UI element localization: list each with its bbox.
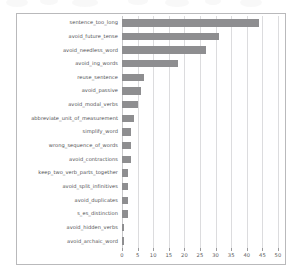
bar[interactable] [122,128,131,135]
bar-chart-figure: 05101520253035404550sentence_too_longavo… [0,0,292,278]
x-tick-mark [169,248,170,251]
x-tick-mark [216,248,217,251]
x-tick-label: 15 [165,252,172,258]
x-tick-label: 30 [212,252,219,258]
bar[interactable] [122,142,131,149]
bar-row[interactable]: wrong_sequence_of_words [122,139,278,152]
x-tick-mark [262,248,263,251]
bar[interactable] [122,87,141,94]
scan-artifact [205,0,221,5]
scan-artifact [240,0,262,7]
bar-row[interactable]: avoid_split_infinitives [122,180,278,193]
x-tick-label: 5 [136,252,139,258]
bar[interactable] [122,156,131,163]
category-label: keep_two_verb_parts_together [38,170,118,175]
bar[interactable] [122,224,124,231]
category-label: avoid_needless_word [63,48,118,53]
bar[interactable] [122,101,138,108]
category-label: simplify_word [82,129,118,134]
bar-row[interactable]: avoid_needless_word [122,44,278,57]
x-tick-label: 25 [197,252,204,258]
x-tick-label: 40 [243,252,250,258]
bar-row[interactable]: s_es_distinction [122,207,278,220]
x-tick-label: 0 [120,252,123,258]
category-label: avoid_ing_words [75,61,118,66]
bar-row[interactable]: avoid_duplicates [122,194,278,207]
bar[interactable] [122,46,206,53]
bar[interactable] [122,74,144,81]
x-tick-mark [278,248,279,251]
category-label: reuse_sentence [77,75,118,80]
bar[interactable] [122,169,128,176]
x-tick-label: 20 [181,252,188,258]
x-tick-mark [138,248,139,251]
bar-row[interactable]: sentence_too_long [122,16,278,29]
x-tick-mark [184,248,185,251]
bar-row[interactable]: avoid_contractions [122,153,278,166]
x-gridline [278,16,279,248]
x-tick-mark [200,248,201,251]
category-label: avoid_contractions [69,157,118,162]
x-tick-label: 45 [259,252,266,258]
bar-row[interactable]: avoid_archaic_word [122,235,278,248]
bar-row[interactable]: avoid_future_tense [122,30,278,43]
bar-row[interactable]: keep_two_verb_parts_together [122,166,278,179]
x-tick-label: 50 [275,252,282,258]
category-label: abbreviate_unit_of_measurement [31,116,118,121]
bar[interactable] [122,210,128,217]
bar-row[interactable]: avoid_modal_verbs [122,98,278,111]
bar[interactable] [122,60,178,67]
category-label: avoid_archaic_word [67,239,118,244]
category-label: s_es_distinction [77,211,118,216]
category-label: wrong_sequence_of_words [49,143,118,148]
x-tick-mark [247,248,248,251]
category-label: avoid_duplicates [75,198,118,203]
scan-artifact [72,0,98,7]
bar-row[interactable]: avoid_hidden_verbs [122,221,278,234]
bar-row[interactable]: reuse_sentence [122,71,278,84]
category-label: avoid_hidden_verbs [67,225,119,230]
bar-row[interactable]: simplify_word [122,126,278,139]
category-label: avoid_split_infinitives [62,184,118,189]
bar[interactable] [122,19,259,26]
bar[interactable] [122,197,128,204]
bar[interactable] [122,183,128,190]
category-label: avoid_future_tense [69,34,118,39]
category-label: sentence_too_long [70,20,118,25]
bar-row[interactable]: avoid_passive [122,85,278,98]
bar[interactable] [122,115,134,122]
category-label: avoid_modal_verbs [68,102,118,107]
x-tick-mark [122,248,123,251]
bar[interactable] [122,33,219,40]
scan-artifact [40,0,58,5]
x-tick-label: 35 [228,252,235,258]
bar-row[interactable]: abbreviate_unit_of_measurement [122,112,278,125]
bar[interactable] [122,237,124,244]
scan-artifact [165,0,189,7]
x-tick-label: 10 [150,252,157,258]
category-label: avoid_passive [82,88,118,93]
bar-row[interactable]: avoid_ing_words [122,57,278,70]
x-tick-mark [231,248,232,251]
x-tick-mark [153,248,154,251]
plot-area: 05101520253035404550sentence_too_longavo… [122,16,278,248]
scan-artifact [6,0,28,7]
scan-artifact [128,0,148,5]
